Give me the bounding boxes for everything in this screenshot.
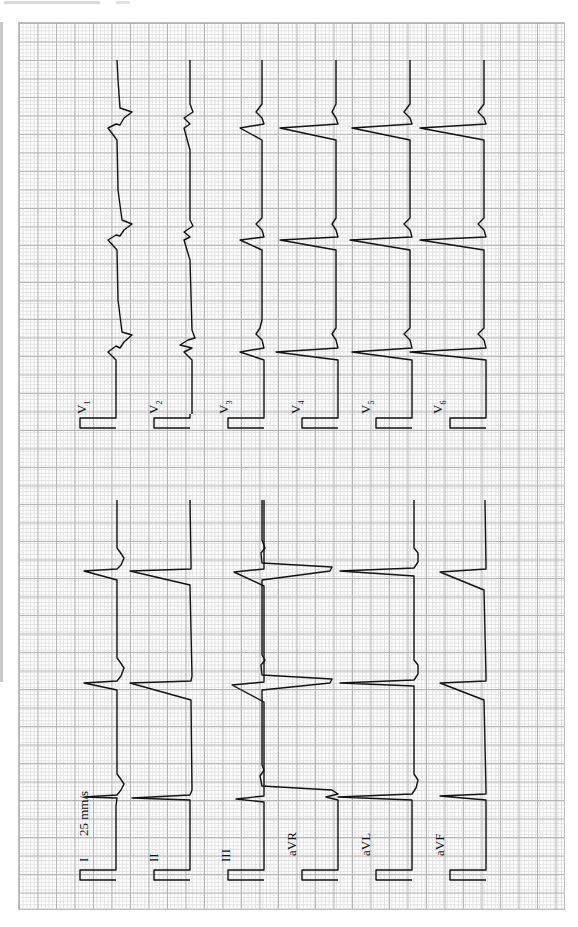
trace-lead-V2	[180, 60, 195, 414]
trace-lead-V6	[410, 60, 486, 414]
lead-label-V5: V5	[358, 401, 376, 414]
lead-label-V2: V2	[146, 401, 164, 414]
ecg-traces	[0, 0, 578, 927]
trace-lead-II	[130, 500, 192, 866]
lead-label-V3: V3	[216, 401, 234, 414]
trace-lead-aVL	[338, 500, 418, 866]
speed-label: 25 mm/s	[76, 791, 92, 836]
lead-label-I: I	[76, 858, 92, 862]
trace-lead-V3	[240, 60, 264, 414]
trace-lead-aVF	[440, 500, 486, 866]
trace-lead-V5	[350, 60, 412, 414]
lead-label-aVR: aVR	[284, 832, 300, 856]
lead-label-V6: V6	[430, 401, 448, 414]
trace-lead-V4	[276, 60, 338, 414]
trace-lead-aVR	[260, 500, 338, 866]
chest-calibration-pulses	[80, 414, 486, 428]
trace-lead-V1	[108, 60, 132, 414]
lead-label-aVF: aVF	[432, 834, 448, 856]
lead-label-V4: V4	[288, 401, 306, 414]
limb-calibration-pulses	[80, 866, 486, 880]
lead-label-aVL: aVL	[358, 833, 374, 856]
lead-label-V1: V1	[74, 401, 92, 414]
lead-label-III: III	[218, 849, 234, 862]
lead-label-II: II	[146, 853, 162, 862]
trace-lead-III	[232, 500, 264, 866]
